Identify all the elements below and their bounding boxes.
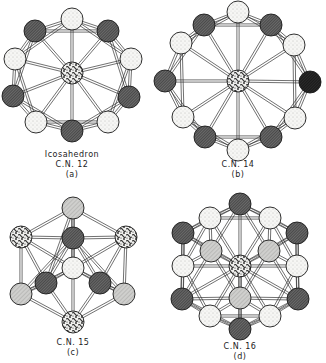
caption-d-coordination-number: C.N. 16 [200, 342, 280, 352]
atom-a-light [97, 111, 119, 133]
atom-d-light [286, 255, 308, 277]
central-atom-b [227, 70, 249, 92]
atom-d-dark [229, 193, 251, 215]
caption-a: Icosahedron C.N. 12 (a) [22, 150, 122, 180]
atom-d-dark [286, 222, 308, 244]
caption-c-letter: (c) [33, 348, 113, 358]
caption-a-coordination-number: C.N. 12 [22, 160, 122, 170]
atom-d-gray [258, 240, 280, 262]
atom-c-dark [35, 272, 57, 294]
atom-b-dark [260, 126, 282, 148]
atom-a-light [4, 48, 26, 70]
caption-b-letter: (b) [198, 170, 278, 180]
central-atom-d [229, 255, 251, 277]
atom-d-light [259, 305, 281, 327]
atom-a-dark [61, 120, 83, 142]
caption-d-letter: (d) [200, 352, 280, 362]
caption-b-coordination-number: C.N. 14 [198, 160, 278, 170]
atom-b-black [299, 71, 321, 93]
atom-a-light [61, 8, 83, 30]
atom-a-dark [2, 85, 24, 107]
atom-a-dark [24, 20, 46, 42]
atom-d-light [199, 207, 221, 229]
atom-c-gray [113, 283, 135, 305]
atom-b-dark [154, 70, 176, 92]
atom-c-dark [89, 272, 111, 294]
caption-b: C.N. 14 (b) [198, 160, 278, 180]
atom-b-light [284, 107, 306, 129]
atom-c-mottled [115, 226, 137, 248]
atom-b-dark [193, 14, 215, 36]
atom-d-light [172, 255, 194, 277]
caption-c-coordination-number: C.N. 15 [33, 338, 113, 348]
atom-c-light [62, 257, 84, 279]
atom-c-gray [10, 283, 32, 305]
caption-c: C.N. 15 (c) [33, 338, 113, 358]
atom-d-dark [172, 222, 194, 244]
atom-a-light [25, 111, 47, 133]
atom-a-dark [97, 20, 119, 42]
atom-a-dark [118, 86, 140, 108]
atom-d-dark [229, 318, 251, 340]
atom-d-gray [200, 240, 222, 262]
atom-c-mottled [10, 226, 32, 248]
atom-b-light [283, 34, 305, 56]
atom-c-gray [62, 197, 84, 219]
atom-d-gray [229, 287, 251, 309]
atom-d-dark [287, 288, 309, 310]
central-atom-a [61, 62, 83, 84]
atom-b-light [172, 106, 194, 128]
atom-b-light [170, 32, 192, 54]
atom-a-light [120, 48, 142, 70]
caption-a-letter: (a) [22, 170, 122, 180]
atom-d-dark [171, 288, 193, 310]
atom-d-light [199, 305, 221, 327]
atom-c-dark [62, 227, 84, 249]
atom-b-light [227, 1, 249, 23]
atom-b-dark [260, 14, 282, 36]
caption-d: C.N. 16 (d) [200, 342, 280, 362]
atom-d-light [259, 207, 281, 229]
atom-c-mottled [62, 311, 84, 333]
atom-b-dark [194, 126, 216, 148]
caption-a-title: Icosahedron [22, 150, 122, 160]
coordination-polyhedra-diagram [0, 0, 326, 363]
atom-b-light [227, 139, 249, 161]
